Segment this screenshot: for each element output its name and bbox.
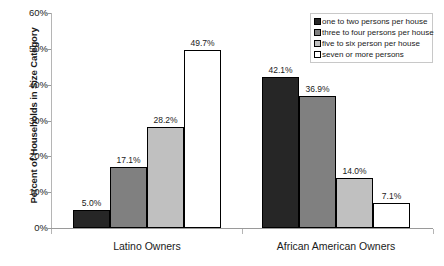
bar-value-label: 14.0%: [330, 166, 379, 176]
bar: [147, 127, 184, 228]
bar: [184, 50, 221, 228]
bar: [336, 178, 373, 228]
legend-item[interactable]: seven or more persons: [313, 49, 430, 60]
bar: [373, 203, 410, 228]
bar-value-label: 49.7%: [178, 38, 227, 48]
y-axis-tick-label: 10%: [14, 187, 48, 197]
legend-item-label: five to six person per house: [322, 39, 420, 48]
bar-value-label: 7.1%: [367, 191, 416, 201]
bar: [73, 210, 110, 228]
y-axis-tick-label: 40%: [14, 80, 48, 90]
legend-item-label: seven or more persons: [322, 50, 404, 59]
legend-swatch-icon: [314, 40, 321, 47]
bar-value-label: 36.9%: [293, 84, 342, 94]
x-axis-end-tick: [433, 229, 434, 234]
legend-swatch-icon: [314, 51, 321, 58]
bar: [299, 96, 336, 228]
bar-value-label: 5.0%: [67, 198, 116, 208]
bar: [110, 167, 147, 228]
legend-swatch-icon: [314, 18, 321, 25]
x-axis-start-tick: [51, 229, 52, 234]
bar-value-label: 28.2%: [141, 115, 190, 125]
legend-item[interactable]: one to two persons per house: [313, 16, 430, 27]
legend-swatch-icon: [314, 29, 321, 36]
bar: [262, 77, 299, 228]
legend-item-label: one to two persons per house: [322, 17, 427, 26]
legend-item-label: three to four persons per house: [322, 28, 434, 37]
bar-chart: Percent of Households in Size Category 0…: [0, 0, 444, 266]
x-axis-category-label: Latino Owners: [57, 240, 237, 252]
bar-value-label: 17.1%: [104, 155, 153, 165]
category-separator-tick: [242, 229, 243, 234]
legend-item[interactable]: five to six person per house: [313, 38, 430, 49]
x-axis-category-label: African American Owners: [246, 240, 426, 252]
chart-legend: one to two persons per housethree to fou…: [310, 13, 433, 63]
y-axis-tick-label: 50%: [14, 44, 48, 54]
y-axis-tick-label: 20%: [14, 151, 48, 161]
y-axis-tick-label: 60%: [14, 8, 48, 18]
bar-value-label: 42.1%: [256, 65, 305, 75]
y-axis-tick-label: 0%: [14, 223, 48, 233]
legend-item[interactable]: three to four persons per house: [313, 27, 430, 38]
y-axis-tick-label: 30%: [14, 116, 48, 126]
y-axis-tick-labels: 0%10%20%30%40%50%60%: [14, 0, 48, 266]
